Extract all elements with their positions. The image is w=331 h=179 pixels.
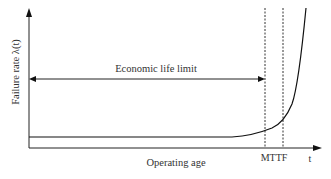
arrow-right-icon <box>258 76 265 82</box>
x-axis-label: Operating age <box>146 157 206 168</box>
mttf-label: MTTF <box>261 152 288 163</box>
y-axis-label: Failure rate λ(t) <box>10 39 22 105</box>
y-axis-arrow-icon <box>26 8 32 17</box>
chart: Economic life limit Operating age MTTF t… <box>0 0 331 179</box>
x-axis-arrow-icon <box>313 145 322 151</box>
arrow-left-icon <box>29 76 36 82</box>
t-label: t <box>309 153 312 164</box>
economic-life-label: Economic life limit <box>115 63 197 74</box>
chart-svg: Economic life limit Operating age MTTF t… <box>0 0 331 179</box>
